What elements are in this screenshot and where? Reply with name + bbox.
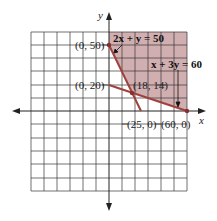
feasible-region-graph: (0, 50) (0, 20) (18, 14) (25, 0) (60, 0)…	[0, 0, 217, 221]
label-point-25-0: (25, 0)	[127, 118, 157, 131]
label-eq1: 2x + y = 50	[113, 32, 165, 44]
point-18-14	[130, 91, 134, 95]
x-axis-label: x	[198, 114, 204, 126]
y-axis-up-arrow-icon	[106, 12, 112, 20]
label-eq2: x + 3y = 60	[151, 58, 203, 70]
point-60-0	[185, 109, 189, 113]
y-axis-label: y	[97, 9, 103, 21]
label-point-0-20: (0, 20)	[75, 79, 105, 92]
label-point-18-14: (18, 14)	[133, 79, 168, 92]
y-axis-down-arrow-icon	[106, 203, 112, 211]
label-point-0-50: (0, 50)	[75, 39, 105, 52]
label-point-60-0: (60, 0)	[161, 118, 191, 131]
x-axis-left-arrow-icon	[12, 108, 20, 114]
